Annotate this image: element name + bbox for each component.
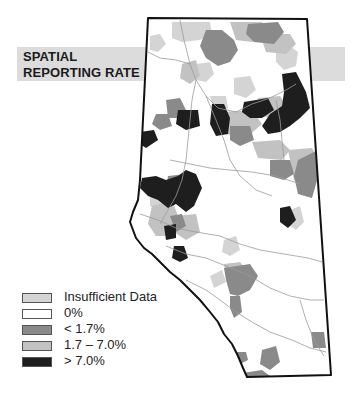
legend-label-low: < 1.7% bbox=[64, 321, 105, 336]
legend-label-insufficient: Insufficient Data bbox=[64, 289, 157, 304]
legend-label-high: > 7.0% bbox=[64, 353, 105, 368]
legend-swatch-low bbox=[22, 325, 52, 335]
region-low bbox=[311, 332, 326, 348]
legend-swatch-insufficient bbox=[22, 293, 52, 303]
map-title-line1: SPATIAL bbox=[23, 49, 140, 65]
legend-swatch-zero bbox=[22, 309, 52, 319]
legend-label-mid: 1.7 – 7.0% bbox=[64, 337, 126, 352]
legend-swatch-high bbox=[22, 357, 52, 367]
legend-swatch-mid bbox=[22, 341, 52, 351]
region-high bbox=[164, 224, 176, 240]
legend-label-zero: 0% bbox=[64, 305, 83, 320]
map-title-line2: REPORTING RATE bbox=[23, 65, 140, 81]
map-title: SPATIAL REPORTING RATE bbox=[23, 49, 140, 81]
